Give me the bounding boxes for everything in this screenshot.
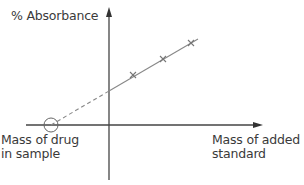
x-axis-arrowhead-icon	[253, 122, 263, 128]
y-axis-label: % Absorbance	[11, 9, 98, 23]
data-point-cross-icon	[160, 56, 166, 62]
intercept-label-line2: in sample	[1, 147, 79, 161]
x-axis-label-line1: Mass of added	[212, 133, 300, 147]
intercept-label-line1: Mass of drug	[1, 133, 79, 147]
x-axis-label: Mass of added standard	[212, 133, 300, 161]
calibration-line	[109, 39, 198, 91]
x-axis-label-line2: standard	[212, 147, 300, 161]
intercept-label: Mass of drug in sample	[1, 133, 79, 161]
extrapolation-line	[51, 91, 109, 125]
data-point-cross-icon	[188, 40, 194, 46]
y-axis-arrowhead-icon	[106, 7, 112, 17]
